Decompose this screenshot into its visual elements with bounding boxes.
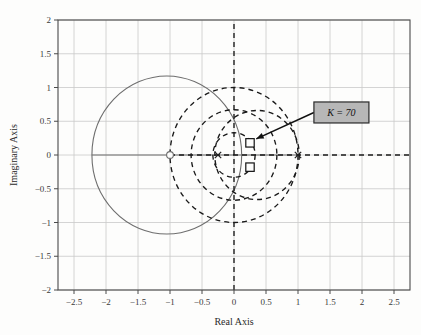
y-tick-label: −0.5: [35, 184, 52, 194]
annotation-label: K = 70: [326, 107, 355, 118]
figure-background: [0, 0, 421, 335]
root-locus-plot: −2.5−2−1.5−1−0.500.511.522.5−2−1.5−1−0.5…: [0, 0, 421, 335]
y-tick-label: −1.5: [35, 251, 52, 261]
zero-marker: [167, 152, 174, 159]
x-tick-label: 1.5: [324, 297, 336, 307]
gain-point-marker[interactable]: [246, 163, 254, 171]
root-figure: −2.5−2−1.5−1−0.500.511.522.5−2−1.5−1−0.5…: [0, 0, 421, 335]
x-tick-label: 0: [232, 297, 237, 307]
y-axis-title: Imaginary Axis: [8, 124, 19, 186]
y-tick-label: 1.5: [40, 49, 52, 59]
x-tick-label: −0.5: [194, 297, 211, 307]
x-tick-label: 0.5: [260, 297, 272, 307]
x-tick-label: 2.5: [388, 297, 400, 307]
x-tick-label: 1: [296, 297, 301, 307]
gain-point-marker[interactable]: [246, 139, 254, 147]
x-tick-label: −2: [101, 297, 111, 307]
y-tick-label: −1: [41, 218, 51, 228]
y-tick-label: −2: [41, 285, 51, 295]
y-tick-label: 0: [47, 150, 52, 160]
x-tick-label: −1.5: [130, 297, 147, 307]
x-tick-label: 2: [360, 297, 365, 307]
y-tick-label: 1: [47, 83, 52, 93]
y-tick-label: 0.5: [40, 116, 52, 126]
x-axis-title: Real Axis: [214, 316, 253, 327]
x-tick-label: −1: [165, 297, 175, 307]
x-tick-label: −2.5: [66, 297, 83, 307]
y-tick-label: 2: [47, 15, 52, 25]
